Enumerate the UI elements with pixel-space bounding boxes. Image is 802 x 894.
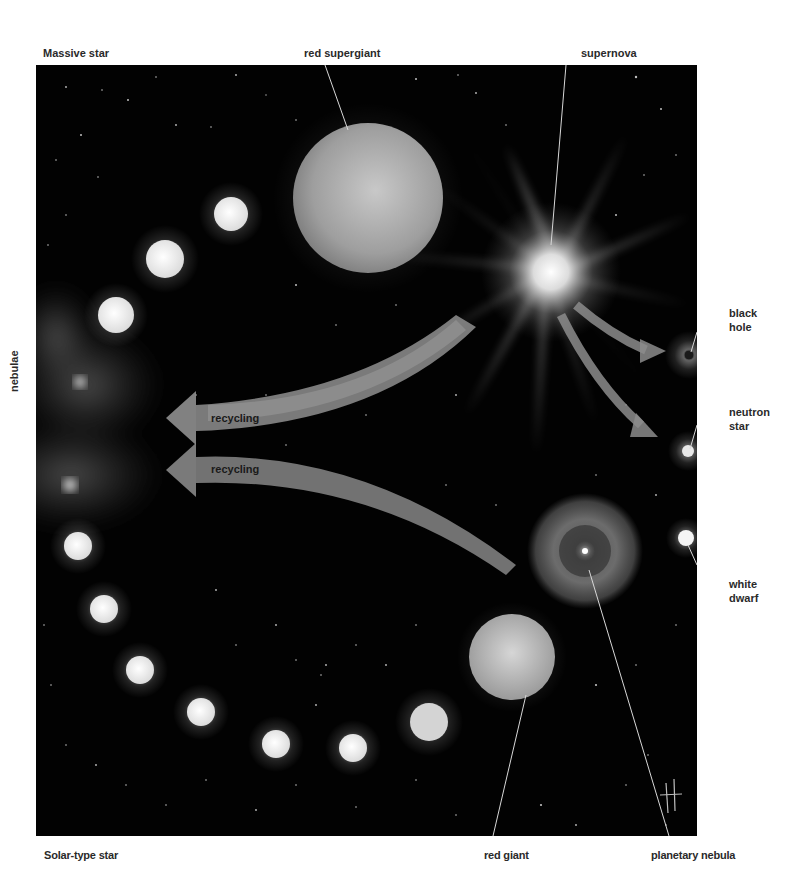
label-planetary-nebula: planetary nebula	[651, 848, 735, 862]
recycling-label-upper: recycling	[211, 412, 259, 424]
label-red-giant: red giant	[484, 848, 529, 862]
label-black-hole: black hole	[729, 306, 757, 334]
label-solar-type-star: Solar-type star	[44, 848, 118, 862]
red-supergiant-star	[293, 123, 443, 273]
recycling-arrow-upper-head	[166, 391, 196, 445]
solar-star-sequence	[50, 518, 463, 776]
space-illustration: recycling recycling	[36, 65, 697, 836]
neutron-star	[682, 445, 694, 457]
artist-signature	[660, 779, 682, 813]
label-massive-star: Massive star	[43, 46, 109, 60]
recycling-label-lower: recycling	[211, 463, 259, 475]
label-nebulae: nebulae	[8, 350, 20, 392]
label-neutron-star: neutron star	[729, 405, 770, 433]
nebula-star-upper	[74, 376, 86, 388]
label-white-dwarf: white dwarf	[729, 577, 758, 605]
nebula-star-lower	[63, 478, 77, 492]
illustration-svg	[36, 65, 697, 836]
black-hole	[684, 350, 694, 360]
massive-star-sequence	[84, 182, 263, 347]
red-giant-star	[469, 614, 555, 700]
label-supernova: supernova	[581, 46, 637, 60]
arrow-head-black-hole	[640, 339, 666, 363]
label-red-supergiant: red supergiant	[304, 46, 380, 60]
recycling-arrow-lower-head	[166, 443, 196, 497]
white-dwarf	[678, 530, 694, 546]
